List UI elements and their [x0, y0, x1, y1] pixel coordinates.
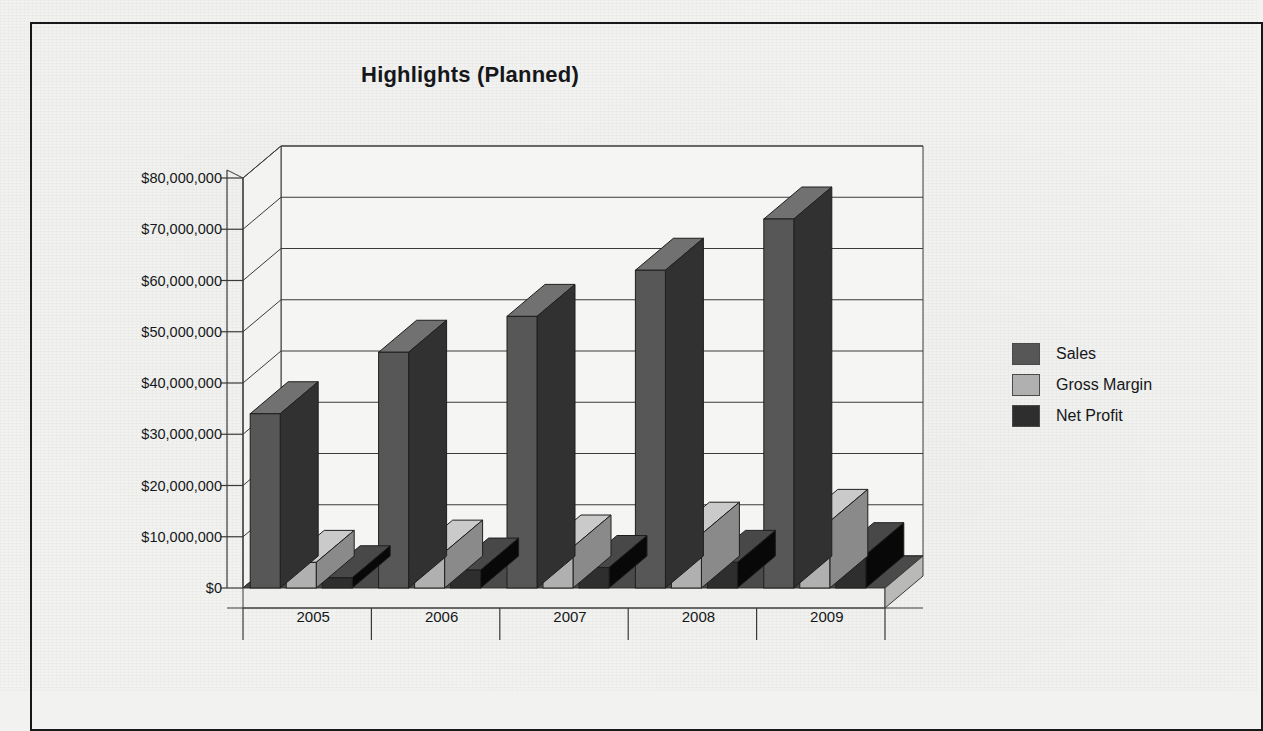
legend-label: Gross Margin: [1056, 376, 1152, 394]
legend-swatch-icon: [1012, 374, 1040, 396]
y-axis-tick-label: $40,000,000: [62, 375, 222, 391]
legend-item-net-profit[interactable]: Net Profit: [1012, 400, 1152, 431]
legend-item-sales[interactable]: Sales: [1012, 338, 1152, 369]
y-axis-tick-label: $70,000,000: [62, 221, 222, 237]
y-axis-tick-label: $60,000,000: [62, 273, 222, 289]
y-axis-tick-label: $20,000,000: [62, 478, 222, 494]
x-axis-tick-label-2006: 2006: [387, 608, 497, 625]
y-axis-tick-label: $0: [62, 580, 222, 596]
x-axis-tick-label-2007: 2007: [515, 608, 625, 625]
x-axis-tick-label-2005: 2005: [258, 608, 368, 625]
legend-label: Net Profit: [1056, 407, 1123, 425]
y-axis-tick-label: $10,000,000: [62, 529, 222, 545]
chart-legend: SalesGross MarginNet Profit: [1012, 338, 1152, 431]
legend-label: Sales: [1056, 345, 1096, 363]
x-axis-tick-label-2008: 2008: [643, 608, 753, 625]
y-axis-tick-label: $30,000,000: [62, 426, 222, 442]
legend-item-gross-margin[interactable]: Gross Margin: [1012, 369, 1152, 400]
y-axis-tick-label: $80,000,000: [62, 170, 222, 186]
x-axis-tick-label-2009: 2009: [772, 608, 882, 625]
y-axis-tick-label: $50,000,000: [62, 324, 222, 340]
legend-swatch-icon: [1012, 405, 1040, 427]
legend-swatch-icon: [1012, 343, 1040, 365]
